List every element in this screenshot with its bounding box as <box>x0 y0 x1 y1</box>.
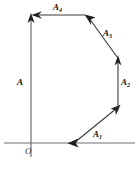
label-A3-sub: 3 <box>108 33 112 39</box>
vector-polygon-svg: A A 1 A 2 A 3 A 4 O <box>0 0 139 172</box>
label-A: A <box>16 77 23 87</box>
label-A2-sub: 2 <box>126 82 130 88</box>
vector-diagram-figure: A A 1 A 2 A 3 A 4 O <box>0 0 139 172</box>
label-A2: A <box>120 77 127 87</box>
vector-A3-arrowhead <box>85 15 96 26</box>
vector-A1 <box>68 105 121 148</box>
label-A1: A <box>92 129 99 139</box>
vector-A3 <box>85 15 118 57</box>
origin-label: O <box>25 146 32 156</box>
label-A3: A <box>102 28 109 38</box>
vector-A <box>27 13 34 157</box>
label-A4: A <box>52 2 59 12</box>
label-A1-sub: 1 <box>99 134 102 140</box>
label-A4-sub: 4 <box>58 7 62 13</box>
vector-A1-arrowhead <box>111 105 121 116</box>
